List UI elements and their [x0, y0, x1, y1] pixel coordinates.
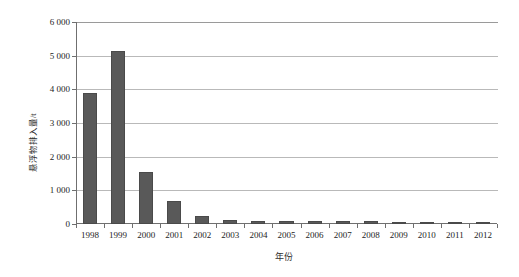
- x-tick-mark: [76, 224, 77, 228]
- x-tick-label: 1999: [109, 230, 127, 240]
- x-tick-mark: [497, 224, 498, 228]
- x-tick-label: 2003: [221, 230, 239, 240]
- y-tick-label: 4 000: [8, 84, 70, 94]
- bar: [195, 216, 209, 224]
- bar: [251, 221, 265, 224]
- bar: [111, 51, 125, 224]
- bar: [83, 93, 97, 224]
- bar: [364, 221, 378, 224]
- x-tick-mark: [301, 224, 302, 228]
- x-tick-label: 1998: [81, 230, 99, 240]
- x-tick-label: 2011: [446, 230, 464, 240]
- bar: [223, 220, 237, 224]
- bar: [448, 222, 462, 224]
- x-tick-label: 2009: [390, 230, 408, 240]
- x-tick-label: 2001: [165, 230, 183, 240]
- x-tick-label: 2007: [334, 230, 352, 240]
- x-tick-label: 2012: [474, 230, 492, 240]
- x-tick-mark: [385, 224, 386, 228]
- x-tick-mark: [272, 224, 273, 228]
- x-tick-mark: [413, 224, 414, 228]
- y-tick-label: 5 000: [8, 51, 70, 61]
- y-tick-label: 3 000: [8, 118, 70, 128]
- bar-series: [76, 22, 497, 224]
- bar: [279, 221, 293, 224]
- x-tick-label: 2000: [137, 230, 155, 240]
- x-tick-label: 2002: [193, 230, 211, 240]
- y-tick-label: 6 000: [8, 17, 70, 27]
- y-tick-label: 2 000: [8, 152, 70, 162]
- x-tick-mark: [216, 224, 217, 228]
- x-tick-mark: [469, 224, 470, 228]
- x-tick-mark: [357, 224, 358, 228]
- x-tick-mark: [104, 224, 105, 228]
- x-tick-mark: [244, 224, 245, 228]
- bar: [167, 201, 181, 224]
- y-tick-label: 1 000: [8, 185, 70, 195]
- bar: [308, 221, 322, 224]
- bar: [420, 222, 434, 224]
- x-tick-mark: [441, 224, 442, 228]
- x-axis-title-container: 年份: [0, 250, 519, 263]
- bar: [336, 221, 350, 224]
- bar: [139, 172, 153, 224]
- x-tick-mark: [160, 224, 161, 228]
- x-axis-title: 年份: [275, 252, 293, 262]
- bar: [392, 222, 406, 224]
- x-tick-label: 2004: [249, 230, 267, 240]
- bar-chart: 悬浮物排入量/t 0 1 000 2 000 3 000 4 000 5 000…: [0, 0, 519, 277]
- y-tick-label: 0: [8, 219, 70, 229]
- x-tick-mark: [188, 224, 189, 228]
- x-tick-label: 2006: [306, 230, 324, 240]
- x-tick-label: 2005: [278, 230, 296, 240]
- x-tick-mark: [329, 224, 330, 228]
- x-tick-label: 2008: [362, 230, 380, 240]
- bar: [476, 222, 490, 224]
- x-tick-label: 2010: [418, 230, 436, 240]
- x-tick-mark: [132, 224, 133, 228]
